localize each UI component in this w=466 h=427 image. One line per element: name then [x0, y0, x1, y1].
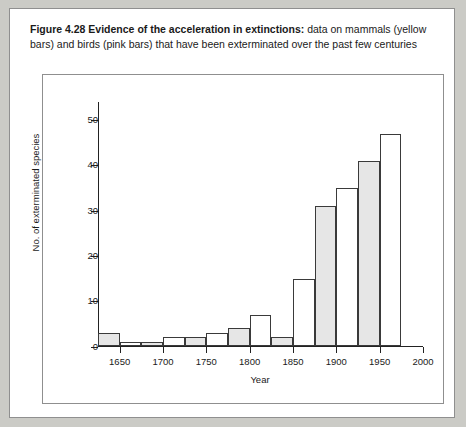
bar-birds-1750 — [206, 333, 228, 347]
bar-mammals-1775 — [228, 328, 250, 346]
figure-card: Figure 4.28 Evidence of the acceleration… — [9, 8, 455, 418]
bar-layer — [10, 9, 456, 419]
bar-mammals-1875 — [315, 206, 337, 346]
bar-birds-1900 — [336, 188, 358, 346]
bar-mammals-1825 — [271, 337, 293, 346]
bar-birds-1800 — [250, 315, 272, 347]
bar-birds-1700 — [163, 337, 185, 346]
bar-mammals-1725 — [185, 337, 207, 346]
bar-mammals-1625 — [98, 333, 120, 347]
bar-birds-1650 — [120, 342, 142, 347]
bar-mammals-1675 — [141, 342, 163, 347]
bar-birds-1950 — [380, 134, 402, 347]
screenshot-root: Figure 4.28 Evidence of the acceleration… — [0, 0, 466, 427]
bar-mammals-1925 — [358, 161, 380, 347]
bar-birds-1850 — [293, 279, 315, 347]
